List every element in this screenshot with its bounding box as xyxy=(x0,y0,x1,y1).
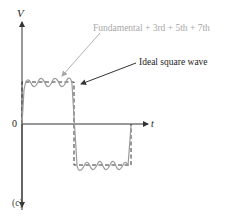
ideal-pointer-arrow xyxy=(81,63,136,84)
y-axis-label: V xyxy=(17,8,24,19)
panel-label: (c) xyxy=(12,199,23,209)
approximation-pointer-arrow xyxy=(62,33,100,76)
ideal-square-wave-label: Ideal square wave xyxy=(139,58,208,68)
x-axis-label: t xyxy=(151,119,154,129)
approximation-label: Fundamental + 3rd + 5th + 7th xyxy=(93,24,210,34)
origin-label: 0 xyxy=(12,119,17,129)
